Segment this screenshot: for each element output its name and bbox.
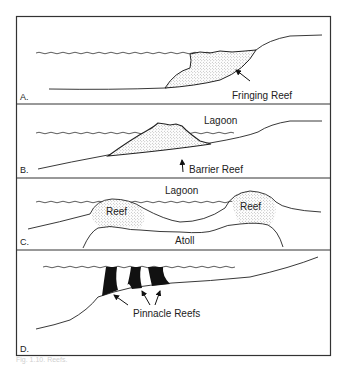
sea-surface	[36, 201, 234, 203]
panel-label-c: C.	[20, 237, 29, 247]
sea-surface	[36, 132, 234, 134]
arrow-icon	[142, 291, 150, 305]
pinnacle-reef-3	[148, 267, 170, 286]
annotation-reef-left: Reef	[106, 206, 127, 217]
arrow-icon	[182, 160, 183, 172]
atoll-top-profile	[28, 191, 321, 229]
arrow-icon	[236, 70, 250, 81]
panel-d: Pinnacle Reefs D.	[20, 257, 318, 354]
figure-caption: Fig. 1.10. Reefs.	[16, 356, 67, 363]
annotation-barrier-reef: Barrier Reef	[189, 164, 243, 175]
fringing-reef-shape	[165, 50, 256, 88]
pinnacle-reef-2	[127, 267, 142, 289]
barrier-reef-shape	[108, 123, 211, 156]
arrow-icon	[114, 295, 128, 305]
panel-label-d: D.	[20, 344, 29, 354]
annotation-fringing-reef: Fringing Reef	[232, 90, 292, 101]
panel-label-a: A.	[20, 92, 29, 102]
annotation-reef-right: Reef	[240, 201, 261, 212]
annotation-lagoon-b: Lagoon	[204, 115, 237, 126]
reef-types-diagram: Fringing Reef A. Lagoon Barrier Reef B. …	[0, 0, 347, 370]
panel-label-b: B.	[20, 165, 29, 175]
arrow-icon	[155, 291, 160, 305]
panel-b: Lagoon Barrier Reef B.	[20, 115, 322, 175]
panel-a: Fringing Reef A.	[20, 35, 322, 102]
annotation-atoll: Atoll	[175, 235, 194, 246]
annotation-lagoon-c: Lagoon	[165, 185, 198, 196]
annotation-pinnacle-reefs: Pinnacle Reefs	[133, 308, 200, 319]
panel-c: Lagoon Reef Reef Atoll C.	[20, 185, 321, 248]
